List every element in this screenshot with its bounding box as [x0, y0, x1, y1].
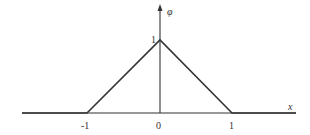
- y-axis-label: φ: [167, 6, 173, 17]
- y-axis-arrow-icon: [158, 4, 163, 11]
- peak-label: 1: [151, 34, 156, 45]
- x-axis-label: x: [287, 101, 293, 112]
- hat-function-curve: [22, 40, 296, 113]
- tick-label-1: 1: [229, 120, 234, 131]
- hat-function-diagram: φ x 1 -1 0 1: [0, 0, 310, 135]
- tick-label-neg1: -1: [81, 120, 89, 131]
- tick-label-0: 0: [156, 120, 161, 131]
